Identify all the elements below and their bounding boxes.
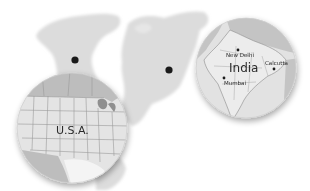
calcutta-label: Calcutta [265,60,288,66]
usa-label: U.S.A. [56,124,89,137]
mumbai-dot [223,77,226,80]
india-marker [165,66,172,73]
north-america-marker [71,56,78,63]
mumbai-label: Mumbai [224,80,246,86]
calcutta-dot [273,68,276,71]
new-delhi-dot [237,49,240,52]
india-label: India [229,61,258,75]
new-delhi-label: New Delhi [226,52,254,58]
world-map-illustration: U.S.A. [0,0,310,191]
india-inset: New Delhi Mumbai Calcutta India [190,18,300,120]
map-canvas: U.S.A. [0,0,310,191]
eurasia-africa-shape [121,11,208,126]
